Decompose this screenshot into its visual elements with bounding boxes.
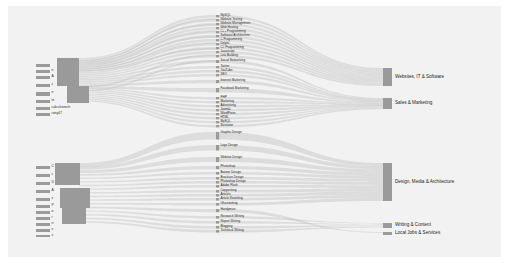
- node-label-freelancer-6: calculustech: [52, 106, 71, 109]
- sankey-node-skill-39[interactable]: [216, 221, 219, 224]
- sankey-node-skill-32[interactable]: [216, 185, 219, 188]
- sankey-node-skill-13[interactable]: [216, 70, 219, 72]
- node-label-skill-16: Facebook Marketing: [220, 87, 248, 90]
- sankey-node-freelancer-9[interactable]: [36, 174, 50, 177]
- sankey-node-cluster-0[interactable]: [57, 58, 79, 86]
- sankey-link: [79, 198, 216, 201]
- sankey-node-skill-37[interactable]: [216, 209, 219, 212]
- node-label-freelancer-13: P: [52, 204, 54, 207]
- node-label-freelancer-9: c: [52, 173, 54, 176]
- node-label-freelancer-4: n: [52, 91, 54, 94]
- sankey-node-skill-34[interactable]: [216, 194, 219, 197]
- sankey-node-skill-5[interactable]: [216, 35, 219, 37]
- sankey-node-skill-3[interactable]: [216, 27, 219, 29]
- sankey-node-category-3[interactable]: [383, 223, 392, 228]
- sankey-node-skill-24[interactable]: [216, 125, 219, 127]
- node-label-freelancer-8: C: [52, 165, 54, 168]
- sankey-node-skill-0[interactable]: [216, 15, 219, 17]
- sankey-node-skill-41[interactable]: [216, 230, 219, 233]
- node-label-skill-11: Social Networking: [220, 59, 245, 62]
- node-label-skill-36: Ghostwriting: [220, 202, 237, 205]
- node-label-skill-41: Technical Writing: [220, 229, 243, 232]
- sankey-node-freelancer-14[interactable]: [36, 211, 50, 214]
- sankey-node-skill-31[interactable]: [216, 181, 219, 184]
- sankey-node-cluster-3[interactable]: [60, 188, 90, 208]
- sankey-node-skill-27[interactable]: [216, 157, 219, 162]
- sankey-node-skill-16[interactable]: [216, 88, 219, 92]
- sankey-node-freelancer-13[interactable]: [36, 205, 50, 208]
- node-label-category-3: Writing & Content: [395, 223, 431, 228]
- sankey-node-category-2[interactable]: [383, 163, 392, 201]
- node-label-freelancer-10: D: [52, 181, 54, 184]
- sankey-node-freelancer-1[interactable]: [36, 70, 50, 73]
- sankey-node-skill-14[interactable]: [216, 74, 219, 76]
- sankey-node-skill-29[interactable]: [216, 172, 219, 175]
- node-label-freelancer-1: n: [52, 69, 54, 72]
- node-label-skill-28: Photoshop: [220, 165, 235, 168]
- sankey-node-skill-15[interactable]: [216, 80, 219, 83]
- sankey-node-freelancer-15[interactable]: [36, 217, 50, 220]
- sankey-node-freelancer-6[interactable]: [36, 107, 50, 110]
- sankey-node-skill-12[interactable]: [216, 66, 219, 68]
- node-label-skill-37: Handyman: [220, 208, 235, 211]
- node-label-freelancer-14: o: [52, 210, 54, 213]
- node-label-skill-10: Link Building: [220, 54, 238, 57]
- sankey-node-skill-9[interactable]: [216, 51, 219, 53]
- sankey-node-freelancer-2[interactable]: [36, 76, 50, 79]
- sankey-node-freelancer-7[interactable]: [36, 113, 50, 116]
- sankey-node-cluster-4[interactable]: [62, 208, 86, 224]
- node-label-skill-32: Adobe Flash: [220, 184, 237, 187]
- sankey-node-skill-6[interactable]: [216, 39, 219, 41]
- sankey-node-skill-19[interactable]: [216, 105, 219, 107]
- sankey-node-skill-10[interactable]: [216, 55, 219, 57]
- sankey-node-skill-28[interactable]: [216, 166, 219, 169]
- sankey-node-freelancer-12[interactable]: [36, 198, 50, 201]
- sankey-node-skill-2[interactable]: [216, 23, 219, 25]
- node-label-skill-35: Article Rewriting: [220, 197, 242, 200]
- sankey-node-freelancer-17[interactable]: [36, 229, 50, 232]
- sankey-node-freelancer-3[interactable]: [36, 84, 50, 87]
- sankey-node-category-0[interactable]: [383, 68, 392, 86]
- sankey-link: [79, 190, 216, 194]
- sankey-node-skill-20[interactable]: [216, 109, 219, 111]
- sankey-node-skill-7[interactable]: [216, 43, 219, 45]
- sankey-node-freelancer-8[interactable]: [36, 166, 50, 169]
- sankey-node-cluster-2[interactable]: [55, 163, 80, 185]
- sankey-node-freelancer-16[interactable]: [36, 223, 50, 226]
- node-label-freelancer-5: te: [52, 99, 55, 102]
- sankey-node-skill-23[interactable]: [216, 121, 219, 123]
- sankey-node-skill-35[interactable]: [216, 198, 219, 201]
- sankey-node-skill-18[interactable]: [216, 101, 219, 103]
- node-label-category-1: Sales & Marketing: [395, 101, 432, 106]
- sankey-node-category-4[interactable]: [383, 232, 392, 235]
- sankey-node-skill-26[interactable]: [216, 145, 219, 151]
- sankey-node-freelancer-5[interactable]: [36, 100, 50, 103]
- sankey-node-skill-38[interactable]: [216, 216, 219, 219]
- sankey-node-skill-36[interactable]: [216, 203, 219, 206]
- node-label-freelancer-15: r: [52, 216, 53, 219]
- node-label-freelancer-12: s: [52, 197, 54, 200]
- sankey-node-category-1[interactable]: [383, 98, 392, 109]
- node-label-freelancer-18: v: [52, 234, 54, 237]
- node-label-skill-14: SEO: [220, 73, 227, 76]
- node-label-freelancer-3: c: [52, 83, 54, 86]
- sankey-link: [219, 185, 383, 188]
- sankey-node-freelancer-18[interactable]: [36, 235, 50, 237]
- sankey-node-skill-4[interactable]: [216, 31, 219, 33]
- sankey-node-cluster-1[interactable]: [67, 86, 89, 103]
- node-label-freelancer-16: n: [52, 222, 54, 225]
- sankey-node-skill-1[interactable]: [216, 19, 219, 21]
- sankey-node-skill-21[interactable]: [216, 113, 219, 115]
- sankey-node-skill-33[interactable]: [216, 190, 219, 193]
- sankey-node-skill-25[interactable]: [216, 132, 219, 140]
- sankey-node-skill-11[interactable]: [216, 60, 219, 63]
- sankey-node-skill-17[interactable]: [216, 97, 219, 99]
- sankey-node-freelancer-4[interactable]: [36, 92, 50, 96]
- sankey-node-skill-8[interactable]: [216, 47, 219, 49]
- sankey-node-freelancer-0[interactable]: [36, 64, 50, 67]
- sankey-node-freelancer-10[interactable]: [36, 182, 50, 185]
- sankey-node-skill-22[interactable]: [216, 117, 219, 119]
- sankey-node-skill-30[interactable]: [216, 177, 219, 180]
- sankey-node-freelancer-11[interactable]: [36, 190, 50, 193]
- sankey-node-skill-40[interactable]: [216, 226, 219, 229]
